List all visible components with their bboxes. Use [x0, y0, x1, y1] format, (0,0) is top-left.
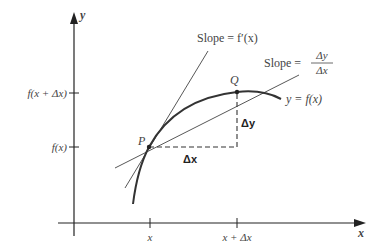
y-axis-arrow-icon [70, 12, 78, 24]
secant-slope-numerator: Δy [315, 49, 327, 61]
curve-label: y = f(x) [285, 92, 322, 106]
x-tick-label-x: x [147, 231, 153, 243]
y-tick-label-f-x: f(x) [52, 141, 68, 154]
x-axis-label: x [357, 226, 364, 240]
y-tick-f-x-plus-dx: f(x + Δx) [27, 87, 79, 100]
derivative-diagram: y x x x + Δx f(x + Δx) f(x) P Q Δx Δy Sl… [0, 0, 374, 249]
point-q [235, 90, 239, 94]
secant-slope-denominator: Δx [315, 64, 327, 76]
y-tick-f-x: f(x) [52, 141, 79, 154]
point-p-label: P [137, 134, 146, 148]
x-tick-x: x [147, 218, 153, 243]
tangent-slope-label: Slope = f′(x) [197, 31, 258, 45]
y-axis-label: y [78, 8, 86, 22]
tangent-line [125, 51, 208, 188]
point-q-label: Q [230, 73, 239, 87]
secant-slope-label: Slope = Δy Δx [264, 49, 333, 76]
x-tick-label-x-plus-dx: x + Δx [221, 231, 251, 243]
y-tick-label-f-x-plus-dx: f(x + Δx) [27, 87, 67, 100]
x-axis: x [58, 219, 366, 240]
delta-x-label: Δx [183, 153, 198, 165]
secant-slope-prefix: Slope = [264, 56, 301, 70]
delta-y-label: Δy [241, 117, 256, 129]
secant-line [115, 75, 299, 168]
x-tick-x-plus-dx: x + Δx [221, 218, 251, 243]
y-axis: y [70, 8, 86, 236]
point-p [147, 145, 151, 149]
